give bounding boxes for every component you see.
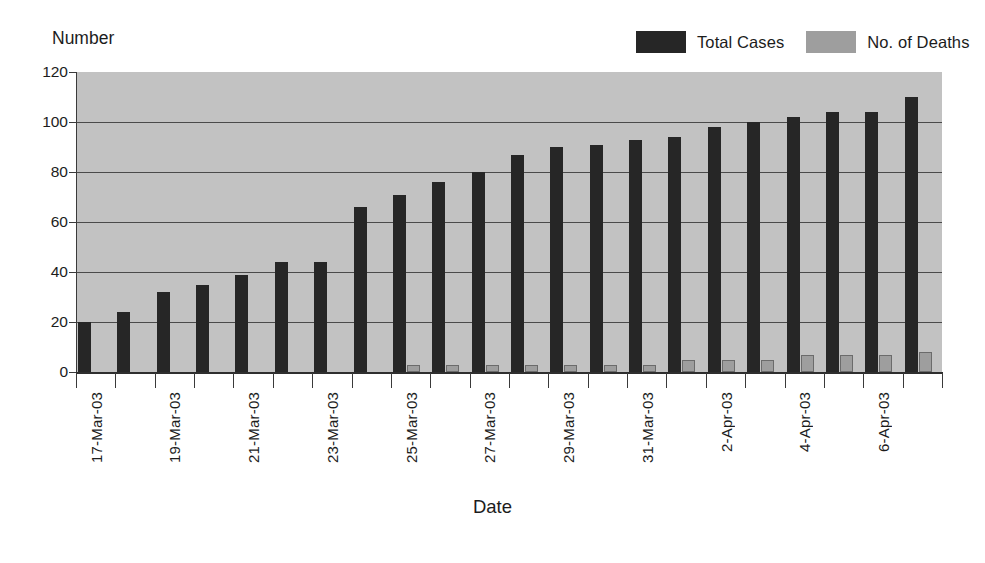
bar-group bbox=[588, 72, 627, 372]
x-axis-tick-mark bbox=[312, 373, 313, 388]
bar-group bbox=[706, 72, 745, 372]
y-axis-tick-label: 0 bbox=[59, 363, 68, 381]
bar-total-cases bbox=[314, 262, 327, 372]
x-axis-tick-mark bbox=[588, 373, 589, 388]
bar-total-cases bbox=[393, 195, 406, 373]
x-axis-tick-label: 23-Mar-03 bbox=[324, 392, 341, 463]
bar-group bbox=[391, 72, 430, 372]
y-axis-tick-mark bbox=[69, 272, 76, 273]
bar-group bbox=[666, 72, 705, 372]
x-axis-tick-label: 27-Mar-03 bbox=[481, 392, 498, 463]
bar-total-cases bbox=[747, 122, 760, 372]
y-axis-tick-mark bbox=[69, 222, 76, 223]
bar-group bbox=[627, 72, 666, 372]
x-axis-tick-mark bbox=[194, 373, 195, 388]
bar-deaths bbox=[643, 365, 656, 373]
bar-group bbox=[155, 72, 194, 372]
bar-total-cases bbox=[157, 292, 170, 372]
x-axis-tick-mark bbox=[666, 373, 667, 388]
y-axis-tick-mark bbox=[69, 122, 76, 123]
bar-group bbox=[785, 72, 824, 372]
bar-deaths bbox=[682, 360, 695, 373]
bar-group bbox=[194, 72, 233, 372]
x-axis-tick-mark bbox=[824, 373, 825, 388]
x-axis-tick-label: 6-Apr-03 bbox=[875, 392, 892, 452]
y-axis-tick-label: 100 bbox=[42, 113, 68, 131]
x-axis-tick-mark bbox=[115, 373, 116, 388]
bars-layer bbox=[76, 72, 942, 372]
bar-group bbox=[312, 72, 351, 372]
bar-deaths bbox=[525, 365, 538, 373]
y-axis-tick-mark bbox=[69, 172, 76, 173]
bar-deaths bbox=[486, 365, 499, 373]
bar-group bbox=[233, 72, 272, 372]
bar-group bbox=[509, 72, 548, 372]
bar-group bbox=[745, 72, 784, 372]
bar-group bbox=[115, 72, 154, 372]
y-axis-tick-label: 120 bbox=[42, 63, 68, 81]
bar-deaths bbox=[722, 360, 735, 373]
bar-group bbox=[76, 72, 115, 372]
bar-deaths bbox=[919, 352, 932, 372]
x-axis-tick-mark bbox=[233, 373, 234, 388]
bar-total-cases bbox=[196, 285, 209, 373]
bar-group bbox=[824, 72, 863, 372]
bar-group bbox=[273, 72, 312, 372]
bar-group bbox=[548, 72, 587, 372]
x-axis-tick-label: 17-Mar-03 bbox=[88, 392, 105, 463]
x-axis-tick-mark bbox=[863, 373, 864, 388]
bar-deaths bbox=[879, 355, 892, 373]
bar-group bbox=[863, 72, 902, 372]
x-axis-tick-mark bbox=[273, 373, 274, 388]
y-axis-ticks: 020406080100120 bbox=[0, 0, 68, 563]
bar-total-cases bbox=[590, 145, 603, 373]
legend-swatch-deaths bbox=[806, 31, 856, 53]
x-axis-tick-label: 31-Mar-03 bbox=[639, 392, 656, 463]
bar-total-cases bbox=[668, 137, 681, 372]
y-axis-tick-label: 20 bbox=[51, 313, 68, 331]
x-axis-tick-label: 29-Mar-03 bbox=[560, 392, 577, 463]
bar-group bbox=[903, 72, 942, 372]
legend-entry-total-cases: Total Cases bbox=[636, 31, 784, 53]
bar-deaths bbox=[604, 365, 617, 373]
x-axis-tick-mark bbox=[785, 373, 786, 388]
x-axis-tick-label: 4-Apr-03 bbox=[796, 392, 813, 452]
x-axis-tick-labels: 17-Mar-0319-Mar-0321-Mar-0323-Mar-0325-M… bbox=[76, 392, 942, 487]
x-axis-tick-mark bbox=[430, 373, 431, 388]
bar-total-cases bbox=[354, 207, 367, 372]
bar-deaths bbox=[761, 360, 774, 373]
bar-total-cases bbox=[235, 275, 248, 373]
bar-group bbox=[430, 72, 469, 372]
y-axis-tick-mark bbox=[69, 372, 76, 373]
legend-label-total-cases: Total Cases bbox=[697, 33, 784, 52]
y-axis-tick-label: 40 bbox=[51, 263, 68, 281]
x-axis-tick-mark bbox=[352, 373, 353, 388]
x-axis-tick-label: 19-Mar-03 bbox=[166, 392, 183, 463]
bar-total-cases bbox=[905, 97, 918, 372]
x-axis-tick-mark bbox=[745, 373, 746, 388]
bar-deaths bbox=[840, 355, 853, 373]
bar-total-cases bbox=[275, 262, 288, 372]
y-axis-tick-label: 80 bbox=[51, 163, 68, 181]
bar-total-cases bbox=[826, 112, 839, 372]
bar-total-cases bbox=[629, 140, 642, 373]
legend-label-deaths: No. of Deaths bbox=[867, 33, 969, 52]
bar-total-cases bbox=[865, 112, 878, 372]
bar-deaths bbox=[801, 355, 814, 373]
bar-group bbox=[470, 72, 509, 372]
x-axis-tick-mark bbox=[391, 373, 392, 388]
bar-total-cases bbox=[708, 127, 721, 372]
bar-total-cases bbox=[432, 182, 445, 372]
x-axis-title: Date bbox=[0, 496, 985, 518]
chart-legend: Total Cases No. of Deaths bbox=[636, 30, 970, 54]
x-axis-tick-mark bbox=[470, 373, 471, 388]
bar-total-cases bbox=[472, 172, 485, 372]
bar-total-cases bbox=[117, 312, 130, 372]
bar-total-cases bbox=[787, 117, 800, 372]
x-axis-tick-mark bbox=[548, 373, 549, 388]
x-axis-tick-label: 25-Mar-03 bbox=[403, 392, 420, 463]
x-axis-tick-mark bbox=[942, 373, 943, 388]
x-axis-tick-mark bbox=[706, 373, 707, 388]
bar-deaths bbox=[407, 365, 420, 373]
legend-entry-deaths: No. of Deaths bbox=[806, 31, 969, 53]
